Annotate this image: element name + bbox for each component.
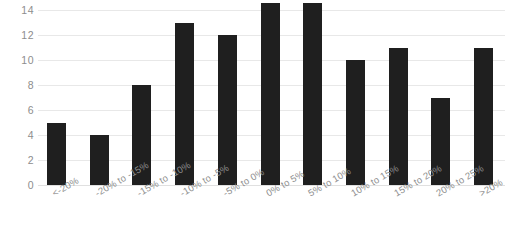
y-axis-tick-label: 8 xyxy=(28,80,34,91)
y-axis-tick-label: 14 xyxy=(21,5,34,16)
y-axis-tick-label: 0 xyxy=(28,180,34,191)
bar[interactable] xyxy=(47,123,66,186)
y-axis-tick-labels: 02468101214 xyxy=(0,0,34,185)
bar[interactable] xyxy=(90,135,109,185)
y-axis-tick-label: 6 xyxy=(28,105,34,116)
x-axis-tick-labels: <-20%-20% to -15%-15% to -10%-10% to -5%… xyxy=(38,185,505,241)
y-axis-tick-label: 12 xyxy=(21,30,34,41)
bar[interactable] xyxy=(261,3,280,186)
y-axis-tick-label: 2 xyxy=(28,155,34,166)
bar[interactable] xyxy=(303,3,322,186)
y-axis-tick-label: 10 xyxy=(21,55,34,66)
bar-chart: 02468101214 <-20%-20% to -15%-15% to -10… xyxy=(0,0,519,241)
y-axis-tick-label: 4 xyxy=(28,130,34,141)
bar[interactable] xyxy=(218,35,237,185)
plot-area xyxy=(38,0,505,185)
bar-series xyxy=(38,0,505,185)
